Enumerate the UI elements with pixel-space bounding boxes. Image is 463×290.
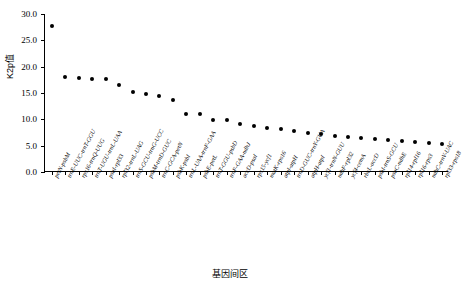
data-point — [77, 76, 81, 80]
data-point — [427, 141, 431, 145]
data-point — [279, 127, 283, 131]
y-tick — [41, 119, 45, 120]
y-tick — [41, 93, 45, 94]
data-point — [131, 90, 135, 94]
data-point — [63, 75, 67, 79]
data-point — [400, 139, 404, 143]
y-tick — [41, 40, 45, 41]
y-tick-label: 0.0 — [0, 168, 37, 177]
y-tick-label: 20.0 — [0, 63, 37, 72]
data-point — [171, 98, 175, 102]
data-point — [117, 83, 121, 87]
data-point — [306, 131, 310, 135]
y-tick — [41, 172, 45, 173]
data-point — [157, 94, 161, 98]
data-point — [292, 129, 296, 133]
data-point — [104, 77, 108, 81]
data-point — [198, 112, 202, 116]
data-point — [50, 24, 54, 28]
data-point — [238, 122, 242, 126]
data-point — [359, 136, 363, 140]
data-point — [252, 124, 256, 128]
data-point — [184, 112, 188, 116]
y-tick — [41, 146, 45, 147]
data-point — [144, 92, 148, 96]
y-tick-label: 10.0 — [0, 115, 37, 124]
data-point — [211, 118, 215, 122]
data-point — [346, 135, 350, 139]
y-tick-label: 25.0 — [0, 36, 37, 45]
data-point — [413, 140, 417, 144]
x-axis-title: 基因间区 — [0, 270, 460, 279]
data-point — [373, 137, 377, 141]
y-tick — [41, 67, 45, 68]
y-tick — [41, 14, 45, 15]
y-tick-label: 30.0 — [0, 10, 37, 19]
y-tick-label: 15.0 — [0, 89, 37, 98]
data-point — [333, 134, 337, 138]
data-point — [225, 118, 229, 122]
data-point — [386, 138, 390, 142]
data-point — [265, 126, 269, 130]
y-tick-label: 5.0 — [0, 142, 37, 151]
data-point — [90, 77, 94, 81]
